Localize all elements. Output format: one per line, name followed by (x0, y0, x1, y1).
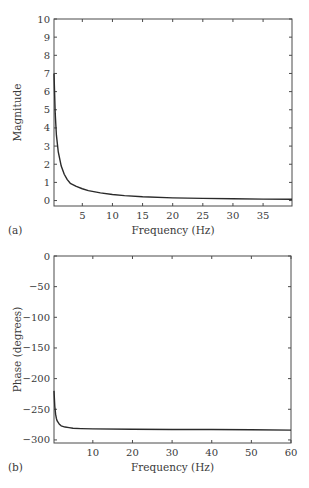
plot-area (54, 256, 291, 443)
phase-chart-panel: 1020304050600−50−100−150−200−250−300Freq… (0, 240, 309, 488)
plot-area (54, 19, 292, 206)
x-tick-label: 20 (126, 447, 139, 458)
phase-chart: 1020304050600−50−100−150−200−250−300Freq… (0, 240, 309, 488)
magnitude-chart: 5101520253035012345678910Frequency (Hz)M… (0, 0, 309, 240)
y-tick-label: 3 (44, 141, 50, 152)
x-tick-label: 35 (257, 210, 270, 221)
data-line (54, 391, 291, 430)
y-tick-label: −200 (23, 373, 50, 384)
panel-label: (a) (8, 224, 22, 236)
x-tick-label: 50 (245, 447, 258, 458)
x-tick-label: 5 (79, 210, 85, 221)
x-tick-label: 60 (285, 447, 298, 458)
y-tick-label: 10 (37, 14, 50, 25)
x-tick-label: 25 (196, 210, 209, 221)
x-tick-label: 10 (86, 447, 99, 458)
x-tick-label: 40 (205, 447, 218, 458)
y-tick-label: 2 (44, 159, 50, 170)
y-axis-label: Phase (degrees) (11, 307, 23, 393)
data-line (54, 73, 292, 199)
y-tick-label: 0 (44, 195, 50, 206)
y-tick-label: −100 (23, 312, 50, 323)
y-tick-label: 7 (44, 68, 50, 79)
x-tick-label: 20 (166, 210, 179, 221)
magnitude-chart-panel: 5101520253035012345678910Frequency (Hz)M… (0, 0, 309, 240)
y-tick-label: 0 (44, 251, 50, 262)
y-tick-label: 6 (44, 86, 50, 97)
x-tick-label: 30 (227, 210, 240, 221)
y-tick-label: 1 (44, 177, 50, 188)
x-axis-label: Frequency (Hz) (131, 224, 214, 236)
y-tick-label: −50 (29, 281, 50, 292)
x-axis-label: Frequency (Hz) (131, 461, 214, 473)
y-axis-label: Magnitude (11, 84, 23, 142)
y-tick-label: 9 (44, 32, 50, 43)
x-tick-label: 10 (106, 210, 119, 221)
y-tick-label: −150 (23, 342, 50, 353)
y-tick-label: 4 (44, 122, 50, 133)
y-tick-label: −250 (23, 404, 50, 415)
x-tick-label: 15 (136, 210, 149, 221)
y-tick-label: 8 (44, 50, 50, 61)
panel-label: (b) (8, 461, 23, 473)
x-tick-label: 30 (166, 447, 179, 458)
y-tick-label: 5 (44, 104, 50, 115)
y-tick-label: −300 (23, 434, 50, 445)
